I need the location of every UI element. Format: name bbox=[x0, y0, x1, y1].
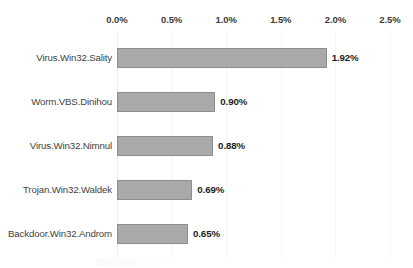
category-label: Trojan.Win32.Waldek bbox=[23, 179, 112, 201]
bar-row: Trojan.Win32.Waldek 0.69% bbox=[0, 179, 413, 203]
category-label: Virus.Win32.Sality bbox=[36, 47, 112, 69]
paper-artifact bbox=[96, 258, 216, 266]
bar-row: Virus.Win32.Sality 1.92% bbox=[0, 47, 413, 71]
plot-area: Virus.Win32.Sality 1.92% Worm.VBS.Diniho… bbox=[0, 30, 413, 258]
value-label: 0.90% bbox=[220, 91, 247, 113]
bar-segment bbox=[117, 92, 215, 112]
category-label: Virus.Win32.Nimnul bbox=[30, 135, 112, 157]
value-label: 0.69% bbox=[197, 179, 224, 201]
bar-segment bbox=[117, 180, 192, 200]
bar-row: Virus.Win32.Nimnul 0.88% bbox=[0, 135, 413, 159]
x-tick-label-3: 1.5% bbox=[270, 13, 291, 26]
bar-chart: 0.0% 0.5% 1.0% 1.5% 2.0% 2.5% Virus.Win3… bbox=[0, 0, 413, 268]
x-axis-tick-labels: 0.0% 0.5% 1.0% 1.5% 2.0% 2.5% bbox=[0, 13, 413, 29]
bar-segment bbox=[117, 136, 213, 156]
value-label: 1.92% bbox=[332, 47, 359, 69]
x-tick-label-0: 0.0% bbox=[106, 13, 127, 26]
value-label: 0.88% bbox=[218, 135, 245, 157]
x-tick-label-1: 0.5% bbox=[161, 13, 182, 26]
category-label: Backdoor.Win32.Androm bbox=[8, 223, 112, 245]
x-tick-label-5: 2.5% bbox=[379, 13, 400, 26]
x-tick-label-4: 2.0% bbox=[325, 13, 346, 26]
bar-segment bbox=[117, 224, 188, 244]
bar-row: Worm.VBS.Dinihou 0.90% bbox=[0, 91, 413, 115]
bar-row: Backdoor.Win32.Androm 0.65% bbox=[0, 223, 413, 247]
value-label: 0.65% bbox=[193, 223, 220, 245]
category-label: Worm.VBS.Dinihou bbox=[31, 91, 112, 113]
bar-segment bbox=[117, 48, 327, 68]
x-tick-label-2: 1.0% bbox=[216, 13, 237, 26]
